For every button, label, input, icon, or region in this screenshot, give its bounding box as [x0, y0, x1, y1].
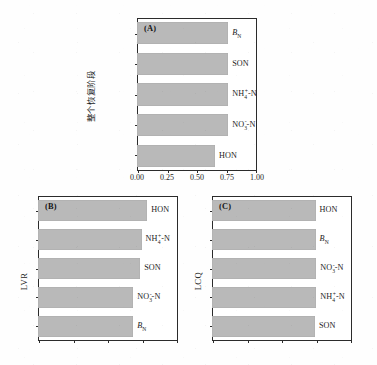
x-tick-label: 0.50 — [190, 174, 204, 182]
x-tick-label: 0.75 — [220, 174, 234, 182]
bar-label-nh4+-n: NH4+-N — [320, 293, 345, 301]
y-axis-title-b: LVR — [20, 250, 29, 290]
bar-label-son: SON — [232, 60, 249, 68]
bar-row: NH4+-N — [212, 287, 352, 308]
bar-nh4+-n — [38, 229, 142, 250]
bar-row: NH4+-N — [38, 229, 178, 250]
bar-row: HON — [38, 200, 178, 221]
bar-label-no3--n: NO3--N — [232, 121, 255, 129]
bar-label-no3--n: NO3--N — [137, 293, 160, 301]
bar-row: SON — [38, 258, 178, 279]
figure-canvas: (A) BNSONNH4+-NNO3--NHON 0.000.250.500.7… — [0, 0, 377, 365]
bar-label-hon: HON — [219, 152, 237, 160]
chart-panel-b: (B) HONNH4+-NSONNO3--NBN — [38, 196, 178, 341]
chart-panel-c: (C) HONBNNO3--NNH4+-NSON — [212, 196, 352, 341]
x-tick-label: 1.00 — [250, 174, 264, 182]
bar-no3--n — [137, 114, 228, 136]
y-axis-title-a: 整个恢复阶段 — [87, 62, 95, 122]
bar-label-hon: HON — [151, 206, 169, 214]
chart-panel-a: (A) BNSONNH4+-NNO3--NHON 0.000.250.500.7… — [137, 18, 257, 171]
bar-row: NH4+-N — [137, 83, 257, 105]
bar-row: SON — [212, 316, 352, 337]
panel-tag-a: (A) — [144, 25, 156, 33]
bar-label-bn: BN — [232, 29, 241, 37]
bar-label-hon: HON — [320, 206, 338, 214]
bar-son — [137, 53, 228, 75]
bar-son — [38, 258, 140, 279]
bar-row: NO3--N — [137, 114, 257, 136]
bar-label-bn: BN — [320, 235, 329, 243]
bar-label-no3--n: NO3--N — [320, 264, 343, 272]
panel-tag-c: (C) — [219, 203, 231, 211]
bar-no3--n — [38, 287, 133, 308]
bar-son — [212, 316, 315, 337]
bar-bn — [212, 229, 316, 250]
bar-no3--n — [212, 258, 316, 279]
bar-label-bn: BN — [137, 322, 146, 330]
x-tick-labels-a: 0.000.250.500.751.00 — [137, 171, 257, 185]
bar-bn — [38, 316, 133, 337]
bar-label-son: SON — [144, 264, 161, 272]
bar-row: SON — [137, 53, 257, 75]
bar-row: NO3--N — [212, 258, 352, 279]
x-tick-label: 0.25 — [160, 174, 174, 182]
bar-nh4+-n — [212, 287, 316, 308]
bar-row: HON — [212, 200, 352, 221]
bar-group-c: HONBNNO3--NNH4+-NSON — [212, 196, 352, 341]
bar-hon — [137, 145, 215, 167]
bar-row: BN — [38, 316, 178, 337]
bar-label-son: SON — [319, 322, 336, 330]
bar-label-nh4+-n: NH4+-N — [146, 235, 171, 243]
bar-group-b: HONNH4+-NSONNO3--NBN — [38, 196, 178, 341]
bar-row: HON — [137, 145, 257, 167]
x-tick-label: 0.00 — [130, 174, 144, 182]
y-axis-title-c: LCQ — [194, 250, 203, 290]
bar-row: BN — [212, 229, 352, 250]
bar-group-a: BNSONNH4+-NNO3--NHON — [137, 18, 257, 171]
bar-nh4+-n — [137, 83, 228, 105]
bar-row: NO3--N — [38, 287, 178, 308]
panel-tag-b: (B) — [45, 203, 57, 211]
bar-label-nh4+-n: NH4+-N — [232, 90, 257, 98]
